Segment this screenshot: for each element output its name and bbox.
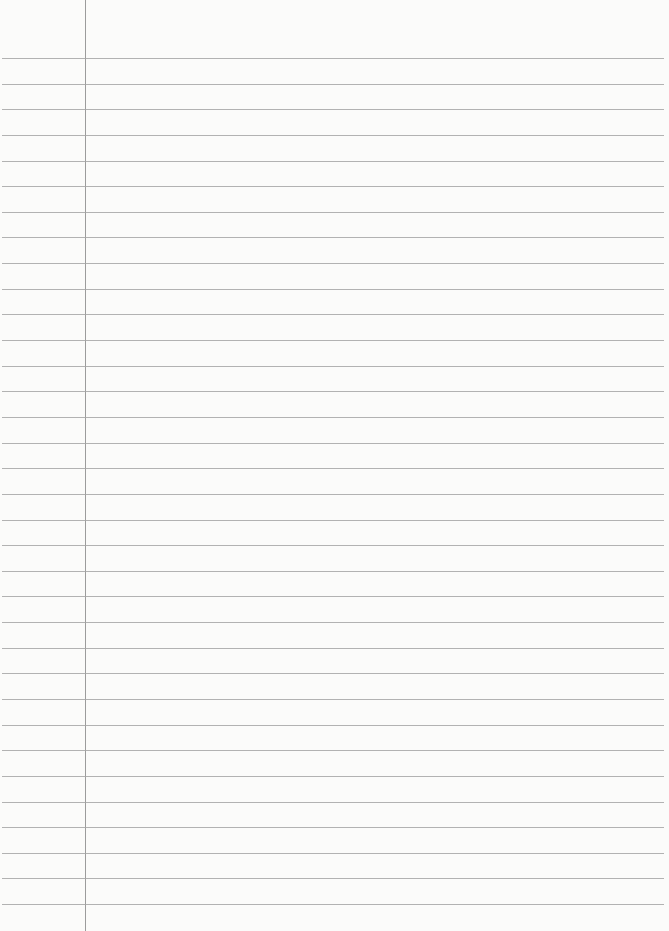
ruled-line [2,776,664,777]
ruled-line [2,596,664,597]
ruled-line [2,750,664,751]
ruled-line [2,545,664,546]
ruled-line [2,673,664,674]
ruled-line [2,366,664,367]
ruled-line [2,802,664,803]
ruled-line [2,904,664,905]
ruled-line [2,186,664,187]
ruled-line [2,725,664,726]
lined-paper-page [0,0,669,931]
margin-line [85,0,86,931]
ruled-line [2,84,664,85]
ruled-line [2,443,664,444]
ruled-line [2,314,664,315]
ruled-line [2,520,664,521]
ruled-line [2,263,664,264]
ruled-line [2,648,664,649]
ruled-line [2,109,664,110]
ruled-line [2,391,664,392]
ruled-line [2,827,664,828]
ruled-line [2,58,664,59]
ruled-line [2,468,664,469]
ruled-line [2,237,664,238]
ruled-line [2,212,664,213]
ruled-line [2,289,664,290]
ruled-line [2,571,664,572]
ruled-line [2,161,664,162]
ruled-line [2,135,664,136]
ruled-line [2,340,664,341]
ruled-line [2,699,664,700]
ruled-line [2,417,664,418]
ruled-line [2,878,664,879]
ruled-line [2,853,664,854]
ruled-line [2,622,664,623]
ruled-line [2,494,664,495]
